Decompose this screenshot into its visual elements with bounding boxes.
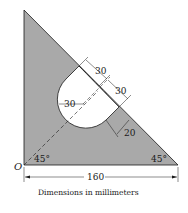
origin-label: O: [14, 161, 22, 172]
base-dimension-label: 160: [87, 172, 104, 182]
slot-dim-2-label: 30: [115, 86, 127, 96]
slot-centerline: [83, 77, 110, 104]
offset-dim-label: 20: [124, 128, 136, 138]
angle-right-label: 45°: [151, 154, 167, 164]
arrowhead: [25, 176, 30, 179]
caption: Dimensions in millimeters: [38, 188, 139, 197]
radius-dim-label: 30: [64, 99, 76, 109]
angle-left-label: 45°: [34, 154, 50, 164]
plate-diagram: 30 30 30 20 45° 45° O 160 Dimensions in …: [0, 0, 188, 213]
slot-dim-1-label: 30: [95, 66, 107, 76]
extension-line: [79, 57, 88, 66]
arrowhead: [172, 176, 177, 179]
extension-line: [119, 95, 131, 107]
